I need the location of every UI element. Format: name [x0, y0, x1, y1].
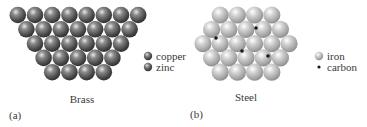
brass-atom	[113, 35, 130, 52]
iron-atom	[212, 64, 229, 81]
iron-atom	[272, 21, 289, 38]
iron-atom	[237, 49, 254, 66]
brass-atom	[61, 35, 78, 52]
iron-atom	[203, 49, 220, 66]
brass-atom	[113, 7, 130, 24]
iron-atom	[263, 35, 280, 52]
brass-atom	[70, 21, 87, 38]
iron-atom	[212, 35, 229, 52]
brass-atom	[27, 35, 44, 52]
carbon-legend-swatch	[317, 65, 320, 68]
brass-legend: copper zinc	[144, 50, 186, 73]
brass-atom	[78, 35, 95, 52]
carbon-atom	[254, 26, 258, 30]
steel-caption: Steel	[235, 91, 257, 103]
carbon-atom	[266, 54, 270, 58]
brass-atom	[104, 21, 121, 38]
brass-atom	[61, 64, 78, 81]
brass-atom	[78, 7, 95, 24]
iron-atom	[229, 35, 246, 52]
brass-atom	[53, 50, 70, 67]
panel-b-label: (b)	[190, 108, 203, 121]
brass-atom	[96, 35, 113, 52]
brass-atom	[87, 50, 104, 67]
iron-atom	[246, 64, 263, 81]
iron-atom	[229, 6, 246, 23]
brass-atom	[96, 64, 113, 81]
iron-atom	[203, 21, 220, 38]
brass-atom	[18, 21, 35, 38]
iron-atom	[220, 49, 237, 66]
iron-atom	[246, 6, 263, 23]
brass-atom	[53, 21, 70, 38]
panel-a-label: (a)	[9, 109, 22, 122]
brass-atom	[35, 50, 52, 67]
brass-atom	[104, 50, 121, 67]
carbon-atom	[214, 36, 218, 40]
carbon-atom	[240, 49, 244, 53]
brass-atom	[121, 21, 138, 38]
iron-atom	[237, 21, 254, 38]
iron-atom	[272, 49, 289, 66]
brass-atom	[96, 7, 113, 24]
brass-atom	[87, 21, 104, 38]
steel-lattice	[194, 6, 297, 80]
brass-atom	[70, 50, 87, 67]
brass-atom	[27, 7, 44, 24]
brass-atom	[61, 7, 78, 24]
brass-atom	[35, 21, 52, 38]
brass-atom	[44, 35, 61, 52]
alloy-diagram: copper zinc iron carbon Brass (a) Steel …	[0, 0, 367, 127]
zinc-legend-swatch	[144, 63, 152, 71]
zinc-legend-label: zinc	[156, 61, 174, 73]
brass-atom	[130, 7, 147, 24]
iron-atom	[263, 6, 280, 23]
iron-atom	[280, 35, 297, 52]
iron-atom	[229, 64, 246, 81]
iron-atom	[263, 64, 280, 81]
iron-atom	[194, 35, 211, 52]
brass-caption: Brass	[70, 93, 94, 105]
iron-atom	[255, 49, 272, 66]
carbon-legend-label: carbon	[327, 61, 357, 73]
brass-atom	[9, 7, 26, 24]
brass-atom	[44, 7, 61, 24]
iron-atom	[220, 21, 237, 38]
iron-legend-swatch	[315, 52, 323, 60]
steel-legend: iron carbon	[315, 50, 358, 73]
brass-atom	[44, 64, 61, 81]
brass-lattice	[9, 7, 146, 81]
iron-atom	[212, 6, 229, 23]
brass-atom	[78, 64, 95, 81]
iron-atom	[246, 35, 263, 52]
copper-legend-swatch	[144, 52, 152, 60]
